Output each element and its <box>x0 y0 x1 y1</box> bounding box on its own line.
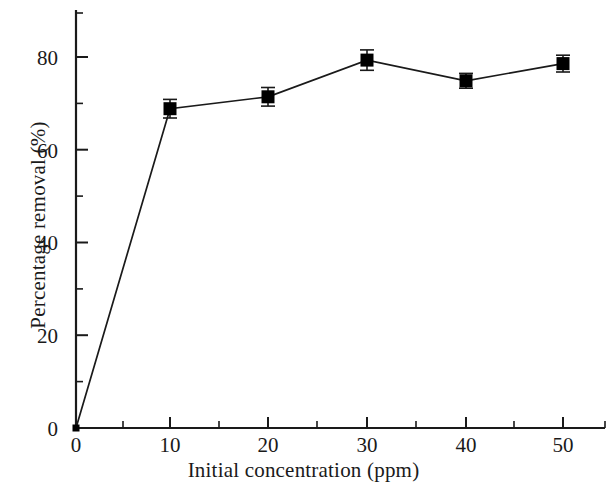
x-tick-label-50: 50 <box>543 433 583 458</box>
x-tick-label-30: 30 <box>347 433 387 458</box>
data-point-marker <box>557 57 570 70</box>
x-tick-label-0: 0 <box>56 433 96 458</box>
data-point-marker <box>262 90 275 103</box>
x-tick-label-20: 20 <box>248 433 288 458</box>
data-point-marker <box>460 74 473 87</box>
data-point-marker <box>164 102 177 115</box>
axis-spines <box>76 10 605 428</box>
data-point-marker <box>73 425 80 432</box>
chart-figure: 0 20 40 60 80 0 10 20 30 40 50 Initial c… <box>0 0 607 489</box>
data-point-marker <box>361 54 374 67</box>
data-series-line <box>76 60 563 428</box>
x-tick-label-40: 40 <box>446 433 486 458</box>
line-chart-plot <box>0 0 607 489</box>
y-axis-major-ticks <box>76 57 88 428</box>
x-axis-title: Initial concentration (ppm) <box>0 458 607 483</box>
x-axis-major-ticks <box>76 417 563 428</box>
x-tick-label-10: 10 <box>150 433 190 458</box>
y-axis-title: Percentage removal (%) <box>26 5 52 445</box>
data-point-markers <box>73 54 570 432</box>
